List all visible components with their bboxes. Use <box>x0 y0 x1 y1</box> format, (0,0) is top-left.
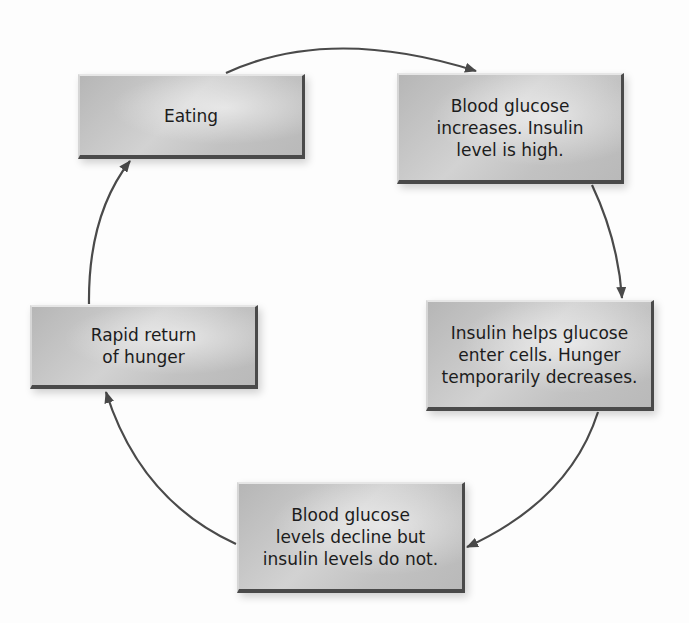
arrow-hunger-to-eating <box>89 161 130 304</box>
arrow-glucose-up-to-insulin <box>592 185 622 298</box>
glucose-hunger-cycle-diagram: Eating Blood glucose increases. Insulin … <box>0 0 689 623</box>
node-blood-glucose-declines-label: Blood glucose levels decline but insulin… <box>263 504 438 570</box>
node-eating-label: Eating <box>164 105 218 127</box>
arrow-insulin-to-decline <box>467 412 598 547</box>
node-blood-glucose-increases: Blood glucose increases. Insulin level i… <box>397 73 624 184</box>
node-rapid-return-of-hunger: Rapid return of hunger <box>30 305 258 389</box>
node-insulin-helps-glucose: Insulin helps glucose enter cells. Hunge… <box>426 300 654 411</box>
arrow-eating-to-glucose-up <box>226 48 476 73</box>
node-blood-glucose-declines: Blood glucose levels decline but insulin… <box>237 482 465 593</box>
arrow-decline-to-hunger <box>106 392 236 544</box>
node-blood-glucose-increases-label: Blood glucose increases. Insulin level i… <box>437 95 584 161</box>
node-rapid-return-of-hunger-label: Rapid return of hunger <box>91 324 197 368</box>
node-eating: Eating <box>78 74 305 159</box>
node-insulin-helps-glucose-label: Insulin helps glucose enter cells. Hunge… <box>442 322 638 388</box>
